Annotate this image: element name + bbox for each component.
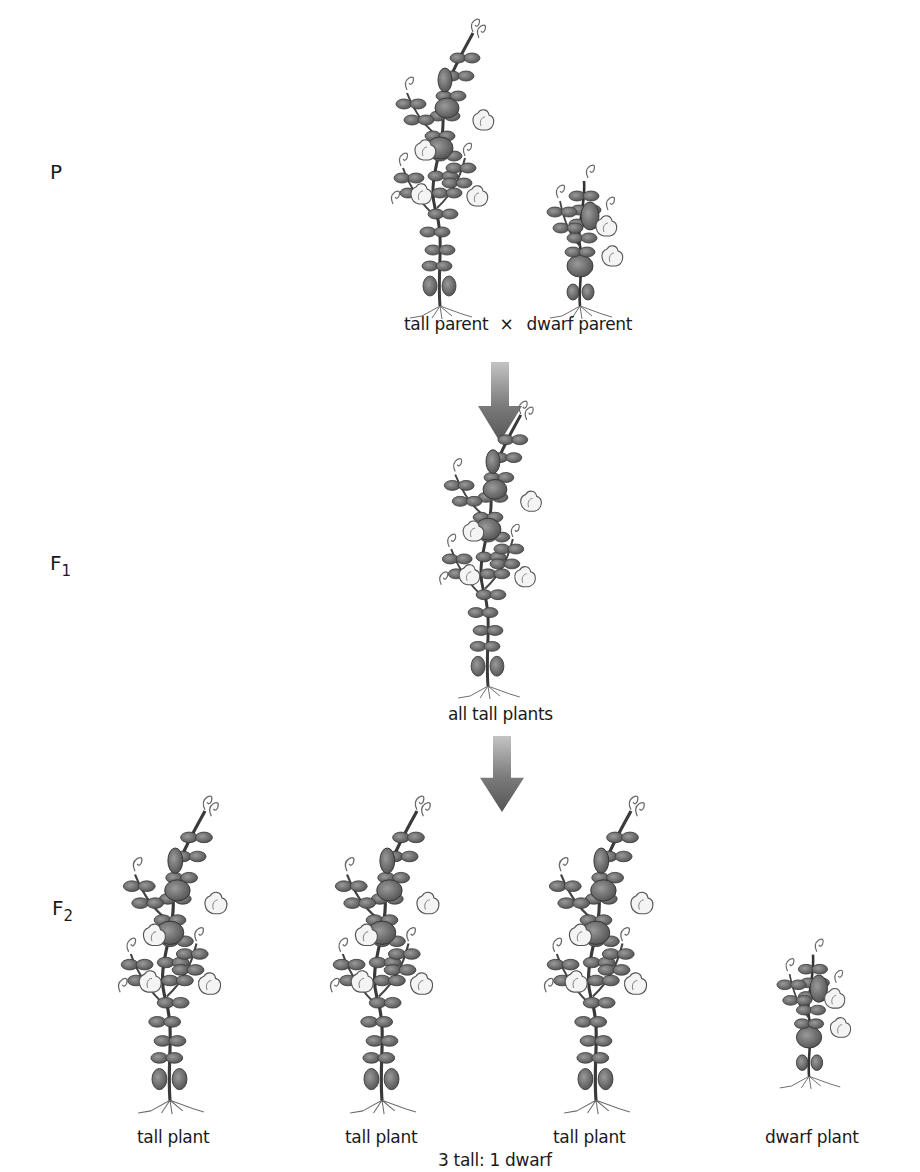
dwarf-parent-plant-illustration bbox=[542, 166, 622, 316]
generation-letter: F bbox=[50, 551, 62, 575]
f2-dwarf-plant-illustration bbox=[772, 940, 850, 1086]
generation-subscript: 2 bbox=[64, 907, 74, 925]
generation-label-f2: F2 bbox=[52, 896, 73, 925]
cross-symbol: × bbox=[499, 314, 513, 334]
tall-parent-plant-illustration bbox=[380, 18, 500, 318]
generation-letter: F bbox=[52, 896, 64, 920]
f1-tall-plant-illustration bbox=[428, 400, 548, 698]
f1-caption: all tall plants bbox=[448, 704, 553, 724]
generation-subscript: 1 bbox=[62, 562, 72, 580]
f2-plant-label: dwarf plant bbox=[765, 1127, 859, 1147]
generation-letter: P bbox=[50, 160, 62, 184]
f2-plant-label: tall plant bbox=[553, 1127, 625, 1147]
generation-label-f1: F1 bbox=[50, 551, 71, 580]
f2-tall-plant-illustration bbox=[110, 795, 230, 1113]
f2-tall-plant-illustration bbox=[322, 795, 442, 1113]
f2-plant-label: tall plant bbox=[345, 1127, 417, 1147]
tall-parent-label: tall parent bbox=[404, 314, 488, 334]
f2-tall-plant-illustration bbox=[536, 795, 656, 1113]
f2-plant-label: tall plant bbox=[137, 1127, 209, 1147]
cross-caption: tall parent × dwarf parent bbox=[404, 314, 632, 334]
generation-label-p: P bbox=[50, 160, 62, 184]
dwarf-parent-label: dwarf parent bbox=[527, 314, 633, 334]
down-arrow-icon bbox=[480, 736, 524, 812]
f2-ratio-caption: 3 tall: 1 dwarf bbox=[438, 1150, 552, 1170]
